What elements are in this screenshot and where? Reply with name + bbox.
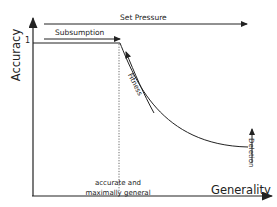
x-marker-label: accurate and maximally general — [78, 178, 158, 198]
accuracy-generality-diagram — [0, 0, 277, 207]
x-axis-label: Generality — [211, 183, 271, 197]
deletion-label: Deletion — [247, 138, 255, 167]
set-pressure-label: Set Pressure — [120, 13, 167, 22]
y-axis-label: Accuracy — [9, 25, 23, 85]
x-marker-label-line2: maximally general — [78, 188, 158, 198]
x-marker-label-line1: accurate and — [78, 178, 158, 188]
y-tick-label: 1 — [25, 36, 30, 45]
subsumption-label: Subsumption — [55, 28, 104, 37]
